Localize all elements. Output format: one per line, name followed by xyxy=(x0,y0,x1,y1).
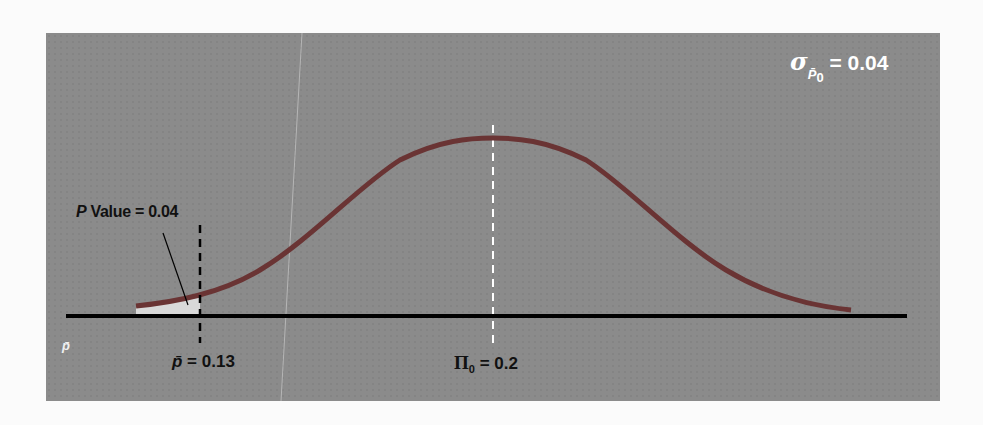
observed-value-label: p̄ = 0.13 xyxy=(172,352,235,372)
null-value-label: Π0 = 0.2 xyxy=(454,352,518,375)
pi-symbol: Π xyxy=(454,352,469,373)
observed-symbol: p̄ xyxy=(172,352,182,371)
sigma-label: σP̄0 = 0.04 xyxy=(790,47,888,76)
p-value-text: Value = 0.04 xyxy=(86,203,178,220)
axis-label: p̄ xyxy=(62,338,70,353)
scan-artifact-line xyxy=(281,33,302,401)
observed-text: = 0.13 xyxy=(182,352,234,371)
null-text: = 0.2 xyxy=(475,354,518,373)
sigma-subscript-zero: 0 xyxy=(816,70,823,85)
p-value-label: P Value = 0.04 xyxy=(76,203,178,221)
p-value-pointer-line xyxy=(163,233,188,305)
p-value-prefix: P xyxy=(76,203,86,220)
sigma-value: = 0.04 xyxy=(829,51,888,74)
sigma-symbol: σ xyxy=(790,47,808,76)
